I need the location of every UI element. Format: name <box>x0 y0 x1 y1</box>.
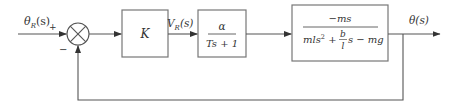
output-label: θ(s) <box>409 14 429 26</box>
plus-sign: + <box>49 22 57 32</box>
plant-numerator: −ms <box>329 13 352 24</box>
block-diagram: θR(s) + − K VR(s) α Ts + 1 −ms mls2 + <box>0 0 450 107</box>
actuator-block: α Ts + 1 <box>198 10 246 57</box>
gain-block: K <box>122 10 168 57</box>
input-label: θR(s) <box>24 15 50 30</box>
minus-sign: − <box>59 44 67 55</box>
svg-text:b: b <box>340 29 346 39</box>
summing-junction <box>67 23 89 45</box>
actuator-numerator: α <box>218 20 225 32</box>
svg-text:l: l <box>342 41 345 51</box>
vr-label: VR(s) <box>167 17 193 32</box>
svg-text:s − mg: s − mg <box>348 34 384 45</box>
gain-label: K <box>140 27 151 41</box>
plant-block: −ms mls2 + b l s − mg <box>292 5 388 61</box>
svg-text:mls2 +: mls2 + <box>303 33 337 45</box>
actuator-denominator: Ts + 1 <box>206 38 238 49</box>
